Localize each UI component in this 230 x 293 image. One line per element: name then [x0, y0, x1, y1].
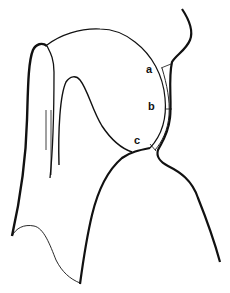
diagram-canvas: a b c [0, 0, 230, 293]
tick-a [161, 64, 171, 68]
inner-arch [59, 77, 132, 165]
label-a: a [146, 64, 152, 75]
left-contour [12, 44, 47, 236]
label-c: c [134, 135, 140, 146]
left-inner-contour [47, 46, 54, 178]
right-contour [157, 9, 220, 262]
center-contour [80, 148, 150, 284]
diagram-drawing [0, 0, 230, 293]
label-b: b [148, 101, 155, 112]
dome-outline [47, 29, 165, 148]
bottom-wave [12, 225, 80, 283]
